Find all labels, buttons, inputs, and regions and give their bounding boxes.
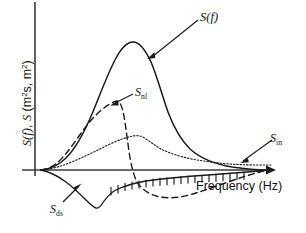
y-axis-label-exp-a: 2 [19, 92, 28, 96]
annotation-label-sf: S(f) [200, 11, 218, 24]
x-axis-label: Frequency (Hz) [196, 180, 282, 193]
leader-snl [110, 94, 133, 106]
y-axis-label-exp-b: 2 [19, 65, 28, 69]
y-axis-label-s: S [20, 115, 34, 121]
y-axis-label-sf: S(f) [20, 128, 34, 146]
plot-canvas [0, 0, 306, 233]
y-axis-label-units-mid: s, m [20, 69, 34, 93]
annotation-label-sin: Sin [270, 132, 282, 144]
annotation-label-sds: Sds [50, 203, 63, 215]
y-axis-label: S(f), S (m2s, m2) [21, 28, 34, 178]
y-axis-label-units-open: (m [20, 97, 34, 115]
annotation-label-snl: Snl [135, 86, 147, 98]
leader-sf [147, 20, 198, 59]
curve-sf [41, 42, 266, 170]
spectral-balance-figure: S(f) Snl Sin Sds Frequency (Hz) S(f), S … [0, 0, 306, 233]
y-axis-label-comma: , [20, 121, 34, 128]
leader-sin [240, 140, 272, 163]
